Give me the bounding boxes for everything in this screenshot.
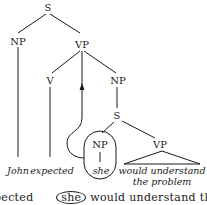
- caption-after: would understand th: [90, 191, 207, 204]
- leaf-she: she: [93, 166, 110, 176]
- node-s-top: S: [45, 3, 52, 13]
- node-np-object: NP: [110, 76, 125, 86]
- node-v: V: [46, 76, 53, 86]
- leaf-john: John: [7, 166, 29, 176]
- node-s-embedded: S: [114, 111, 121, 121]
- node-np-embedded: NP: [92, 140, 107, 150]
- node-vp-embedded: VP: [153, 140, 167, 150]
- leaf-vp-line2: the problem: [133, 177, 192, 187]
- caption-circled-word: she: [56, 191, 86, 204]
- caption-line: pected she would understand th: [0, 191, 207, 204]
- leaf-expected: expected: [30, 166, 74, 176]
- arrowhead-icon: [80, 83, 85, 90]
- leaf-vp-line1: would understand: [118, 166, 205, 176]
- node-np-subject: NP: [10, 37, 25, 47]
- caption-before: pected: [0, 191, 33, 204]
- node-vp-main: VP: [75, 40, 89, 50]
